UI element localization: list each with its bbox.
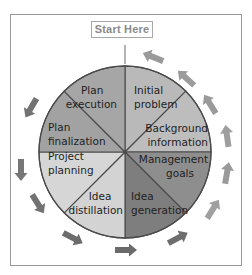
cycle-arrow-icon <box>15 159 28 181</box>
label-plan-finalization-line1: Plan <box>48 121 70 133</box>
label-idea-distillation-line1: Idea <box>89 190 112 202</box>
cycle-arrow-icon <box>202 196 225 222</box>
label-plan-execution-line1: Plan <box>81 84 103 96</box>
cycle-arrow-icon <box>20 95 42 121</box>
label-plan-finalization-line2: finalization <box>48 135 106 147</box>
label-management-goals-line1: Management <box>139 153 208 165</box>
label-background-information-line2: information <box>147 136 208 148</box>
label-initial-problem-line2: problem <box>134 98 177 110</box>
label-idea-generation-line1: Idea <box>131 190 154 202</box>
cycle-arrow-icon <box>27 191 50 217</box>
cycle-arrow-icon <box>60 227 86 249</box>
label-project-planning-line2: planning <box>48 164 94 176</box>
label-project-planning-line1: Project <box>48 150 84 162</box>
label-idea-distillation-line2: distillation <box>69 204 123 216</box>
cycle-arrow-icon <box>219 124 235 148</box>
cycle-diagram: InitialproblemBackgroundinformationManag… <box>0 0 252 275</box>
label-idea-generation-line2: generation <box>131 204 188 216</box>
cycle-arrow-icon <box>219 161 236 185</box>
label-management-goals-line2: goals <box>166 167 194 179</box>
cycle-arrow-icon <box>140 47 165 67</box>
label-plan-execution-line2: execution <box>66 98 117 110</box>
label-initial-problem-line1: Initial <box>134 84 163 96</box>
label-background-information-line1: Background <box>145 122 208 134</box>
cycle-arrow-icon <box>165 227 191 249</box>
cycle-arrow-icon <box>115 244 137 257</box>
